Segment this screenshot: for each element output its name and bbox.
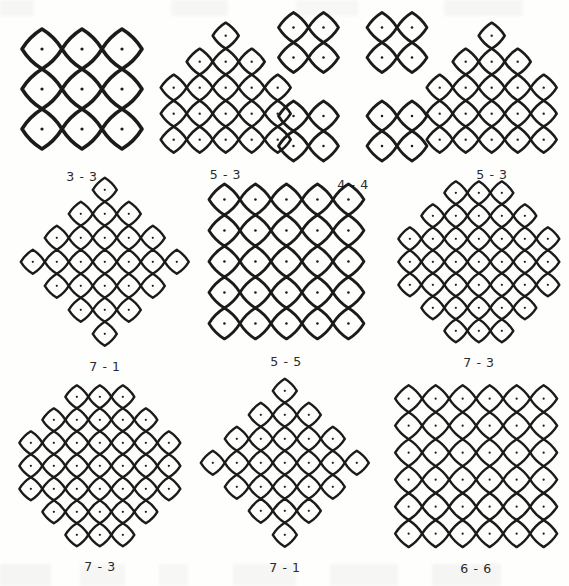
kolam-cell-kolam-7-1-b: 7 - 1 <box>190 368 380 575</box>
kolam-figure-kolam-5-5 <box>195 170 378 353</box>
kolam-figure-kolam-6-6 <box>383 373 569 559</box>
kolam-figure-kolam-7-3-b <box>9 375 191 557</box>
kolam-plate: 3 - 35 - 34 - 45 - 37 - 15 - 57 - 37 - 3… <box>0 0 569 586</box>
kolam-figure-kolam-3-3 <box>4 11 160 167</box>
kolam-figure-grid: 3 - 35 - 34 - 45 - 37 - 15 - 57 - 37 - 3… <box>0 0 569 586</box>
kolam-cell-kolam-7-3-a: 7 - 3 <box>388 171 569 370</box>
kolam-cell-kolam-7-3-b: 7 - 3 <box>9 375 191 574</box>
kolam-figure-kolam-7-1 <box>10 167 200 357</box>
kolam-caption-kolam-6-6: 6 - 6 <box>460 561 491 576</box>
kolam-cell-kolam-3-3: 3 - 3 <box>4 11 160 184</box>
kolam-cell-kolam-7-1: 7 - 1 <box>10 167 200 374</box>
kolam-cell-kolam-5-5: 5 - 5 <box>195 170 378 370</box>
kolam-figure-kolam-7-3-a <box>388 171 569 353</box>
kolam-cell-kolam-5-3-b: 5 - 3 <box>415 11 568 181</box>
kolam-cell-kolam-6-6: 6 - 6 <box>383 373 569 576</box>
kolam-caption-kolam-7-3-b: 7 - 3 <box>84 559 115 574</box>
kolam-figure-kolam-5-3-b <box>415 11 568 164</box>
kolam-figure-kolam-7-1-b <box>190 368 380 558</box>
kolam-caption-kolam-7-1: 7 - 1 <box>89 359 120 374</box>
kolam-caption-kolam-7-1-b: 7 - 1 <box>269 560 300 575</box>
kolam-caption-kolam-7-3-a: 7 - 3 <box>463 355 494 370</box>
